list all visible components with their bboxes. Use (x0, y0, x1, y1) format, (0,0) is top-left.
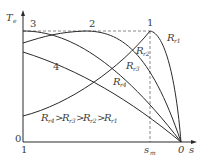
svg-text:r3: r3 (69, 117, 76, 124)
torque-slip-diagram: T e 3 2 4 1 R r1 R r2 R r3 R r4 R r4 > R… (0, 0, 209, 161)
y-origin-label: 0 (15, 133, 21, 144)
label-rr2-sub: r2 (143, 50, 150, 57)
curve-number-2: 2 (89, 18, 95, 29)
x-axis-label: s (189, 144, 194, 155)
svg-text:r1: r1 (111, 117, 118, 124)
curve-rr4 (23, 52, 181, 142)
curve-number-3: 3 (30, 18, 36, 29)
y-axis-arrow-icon (21, 10, 25, 16)
sm-label-sub: m (150, 149, 156, 156)
x-left-label: 1 (21, 144, 27, 155)
y-axis-label-sub: e (13, 17, 17, 24)
label-rr1-sub: r1 (174, 37, 181, 44)
svg-text:r2: r2 (90, 117, 97, 124)
label-rr4-sub: r4 (120, 81, 127, 88)
relation-text: R r4 > R r3 > R r2 > R r1 (40, 112, 118, 124)
curve-number-4: 4 (53, 61, 59, 72)
peak-point-label: 1 (147, 17, 153, 28)
svg-text:r4: r4 (48, 117, 55, 124)
label-rr3-sub: r3 (133, 65, 140, 72)
sm-label: s (144, 144, 149, 155)
x-right-origin-label: 0 (178, 144, 185, 155)
